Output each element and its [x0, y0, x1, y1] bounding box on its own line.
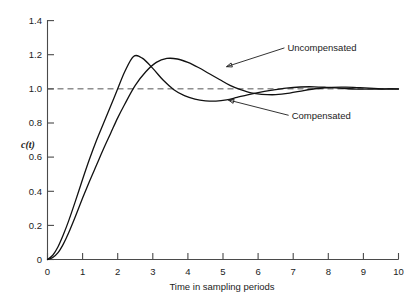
- y-tick-label-5: 1.0: [29, 83, 42, 94]
- x-tick-label-4: 4: [185, 266, 190, 277]
- x-tick-label-3: 3: [150, 266, 155, 277]
- y-tick-label-3: 0.6: [29, 151, 42, 162]
- arrowhead-uncompensated: [227, 63, 233, 67]
- annotation-label-uncompensated: Uncompensated: [287, 42, 356, 53]
- y-tick-label-4: 0.8: [29, 117, 42, 128]
- x-tick-label-9: 9: [361, 266, 366, 277]
- figure-container: 0 0.2 0.4 0.6 0.8 1.0 1.2 1.4 c(t): [0, 0, 420, 306]
- x-tick-label-0: 0: [45, 266, 50, 277]
- x-axis-ticks: [48, 253, 399, 260]
- x-tick-label-6: 6: [255, 266, 260, 277]
- x-tick-label-5: 5: [220, 266, 225, 277]
- annotation-label-compensated: Compensated: [292, 110, 351, 121]
- x-tick-label-2: 2: [115, 266, 120, 277]
- arrowhead-compensated: [228, 99, 234, 103]
- leader-line-compensated: [228, 100, 288, 115]
- x-axis-tick-labels: 0 1 2 3 4 5 6 7 8 9 10: [45, 266, 404, 277]
- leader-line-uncompensated: [227, 48, 285, 67]
- x-tick-label-7: 7: [291, 266, 296, 277]
- y-tick-label-6: 1.2: [29, 49, 42, 60]
- x-axis-title: Time in sampling periods: [169, 281, 274, 292]
- x-tick-label-1: 1: [80, 266, 85, 277]
- annotation-uncompensated: Uncompensated: [227, 42, 357, 67]
- x-tick-label-8: 8: [326, 266, 331, 277]
- y-tick-label-0: 0: [37, 254, 42, 265]
- step-response-chart: 0 0.2 0.4 0.6 0.8 1.0 1.2 1.4 c(t): [0, 0, 420, 306]
- y-tick-label-7: 1.4: [29, 15, 42, 26]
- y-tick-label-2: 0.4: [29, 186, 42, 197]
- y-axis-ticks: [48, 21, 55, 260]
- x-tick-label-10: 10: [393, 266, 404, 277]
- y-tick-label-1: 0.2: [29, 220, 42, 231]
- annotation-compensated: Compensated: [228, 99, 351, 120]
- y-axis-title: c(t): [21, 139, 35, 151]
